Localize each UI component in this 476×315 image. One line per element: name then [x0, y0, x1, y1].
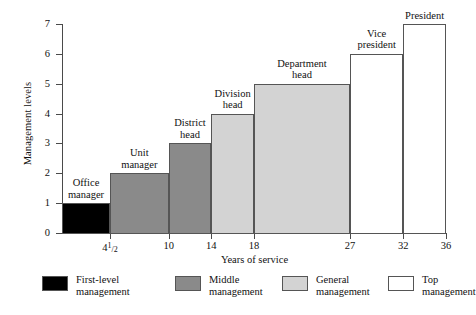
x-tick-label: 14	[191, 240, 231, 252]
legend-item: Middle management	[175, 274, 263, 297]
bar-label: President	[386, 10, 464, 22]
bar-department	[254, 84, 350, 234]
bar-label: Department head	[263, 58, 341, 81]
x-tick-label: 32	[383, 240, 423, 252]
y-tick-mark	[56, 143, 63, 144]
legend-swatch-icon	[175, 276, 201, 291]
y-tick-mark	[56, 84, 63, 85]
x-tick-label: 27	[330, 240, 370, 252]
y-tick-mark	[56, 114, 63, 115]
x-tick-mark	[211, 234, 212, 239]
x-tick-mark	[169, 234, 170, 239]
x-tick-mark	[446, 234, 447, 239]
legend-label: First-level management	[76, 274, 130, 297]
y-tick-label: 5	[28, 79, 50, 89]
x-tick-mark	[403, 234, 404, 239]
y-tick-mark	[56, 173, 63, 174]
x-axis-title: Years of service	[62, 254, 447, 265]
y-tick-label: 7	[28, 19, 50, 29]
legend-label: General management	[316, 274, 370, 297]
y-tick-label: 0	[28, 228, 50, 238]
bar-unit	[110, 173, 169, 234]
legend-swatch-icon	[282, 276, 308, 291]
chart-legend: First-level managementMiddle managementG…	[0, 274, 472, 310]
x-tick-mark	[254, 234, 255, 239]
legend-swatch-icon	[388, 276, 414, 291]
x-tick-label: 10	[149, 240, 189, 252]
x-tick-mark	[350, 234, 351, 239]
bar-label: Unit manager	[100, 147, 178, 170]
bar-president	[403, 24, 446, 234]
x-tick-label: 18	[234, 240, 274, 252]
y-tick-label: 6	[28, 49, 50, 59]
bar-office	[62, 203, 110, 234]
legend-item: Top management	[388, 274, 476, 297]
bar-division	[211, 114, 254, 234]
y-tick-label: 3	[28, 138, 50, 148]
legend-label: Top management	[422, 274, 476, 297]
bar-district	[169, 143, 212, 234]
legend-item: First-level management	[42, 274, 130, 297]
y-tick-label: 4	[28, 109, 50, 119]
legend-label: Middle management	[209, 274, 263, 297]
y-tick-mark	[56, 24, 63, 25]
legend-item: General management	[282, 274, 370, 297]
x-tick-label: 36	[426, 240, 466, 252]
y-tick-mark	[56, 54, 63, 55]
x-tick-mark	[110, 234, 111, 239]
legend-swatch-icon	[42, 276, 68, 291]
bar-vice	[350, 54, 403, 234]
